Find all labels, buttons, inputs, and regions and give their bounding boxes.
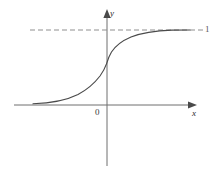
plot-canvas [0, 0, 215, 180]
asymptote-value-label: 1 [205, 25, 210, 34]
origin-label: 0 [95, 108, 100, 117]
curve-path [33, 30, 190, 104]
graph-figure: y x 0 1 [0, 0, 215, 180]
y-axis-label: y [110, 9, 114, 18]
x-axis-label: x [192, 109, 196, 118]
